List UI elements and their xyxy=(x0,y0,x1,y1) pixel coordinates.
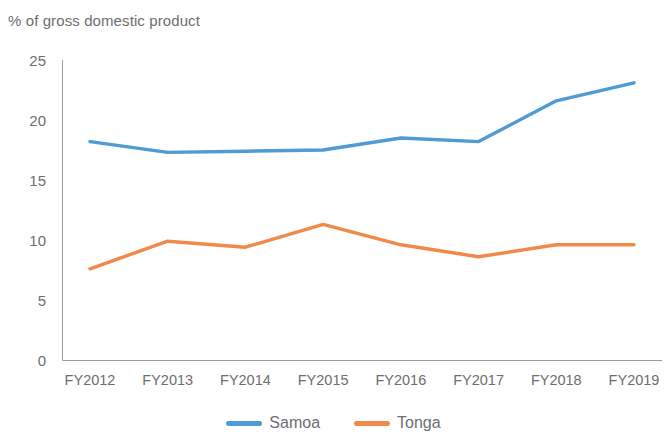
legend-swatch-icon xyxy=(354,421,390,426)
series-line-tonga xyxy=(90,224,634,268)
chart-canvas xyxy=(62,60,662,362)
x-tick-label: FY2015 xyxy=(298,372,349,388)
legend-label: Tonga xyxy=(397,414,441,432)
y-tick-label: 5 xyxy=(6,292,46,309)
legend-item-tonga[interactable]: Tonga xyxy=(354,414,441,432)
x-tick-label: FY2017 xyxy=(453,372,504,388)
x-tick-label: FY2012 xyxy=(65,372,116,388)
data-series-group xyxy=(90,83,634,269)
chart-axis-title: % of gross domestic product xyxy=(8,12,200,29)
plot-area: 0510152025 FY2012FY2013FY2014FY2015FY201… xyxy=(62,60,662,362)
y-tick-label: 0 xyxy=(6,352,46,369)
legend-label: Samoa xyxy=(269,414,320,432)
legend-swatch-icon xyxy=(226,421,262,426)
axis-lines xyxy=(62,60,662,361)
y-tick-label: 20 xyxy=(6,112,46,129)
x-tick-label: FY2016 xyxy=(375,372,426,388)
series-line-samoa xyxy=(90,83,634,153)
x-tick-label: FY2014 xyxy=(220,372,271,388)
legend-item-samoa[interactable]: Samoa xyxy=(226,414,320,432)
y-tick-label: 15 xyxy=(6,172,46,189)
x-tick-label: FY2019 xyxy=(609,372,660,388)
x-tick-label: FY2013 xyxy=(142,372,193,388)
y-tick-label: 25 xyxy=(6,52,46,69)
line-chart: % of gross domestic product 0510152025 F… xyxy=(0,0,667,439)
y-tick-label: 10 xyxy=(6,232,46,249)
x-tick-label: FY2018 xyxy=(531,372,582,388)
chart-legend: SamoaTonga xyxy=(0,414,667,432)
